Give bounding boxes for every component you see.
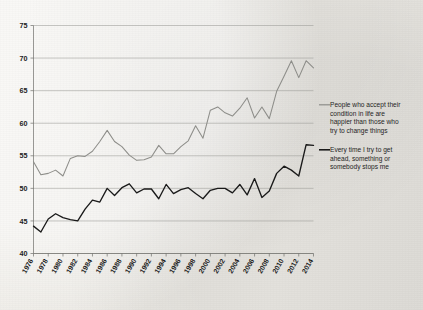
x-axis-tick-label: 1982 xyxy=(65,257,79,274)
legend-label-1: condition in life are xyxy=(330,110,385,117)
x-axis-tick-label: 2004 xyxy=(227,257,241,274)
x-axis-tick-label: 1998 xyxy=(183,257,197,274)
x-axis-tick-label: 2000 xyxy=(197,257,211,274)
line-chart: 4045505560657075 19761978198019821984198… xyxy=(0,0,423,310)
y-axis-tick-label: 55 xyxy=(20,151,28,160)
x-axis: 1976197819801982198419861988199019921994… xyxy=(21,254,315,275)
series-lines xyxy=(34,61,314,232)
legend-label-1: happier than those who xyxy=(330,118,399,126)
x-axis-tick-label: 1984 xyxy=(79,257,93,274)
x-axis-tick-label: 1986 xyxy=(94,257,108,274)
x-axis-tick-label: 1994 xyxy=(153,257,167,274)
legend-label-2: ahead, something or xyxy=(330,155,391,163)
y-axis: 4045505560657075 xyxy=(20,21,34,258)
x-axis-tick-label: 2006 xyxy=(242,257,256,274)
legend-label-2: somebody stops me xyxy=(330,163,389,171)
y-axis-tick-label: 60 xyxy=(20,119,28,128)
x-axis-tick-label: 2002 xyxy=(212,257,226,274)
x-axis-tick-label: 2014 xyxy=(301,257,315,274)
y-axis-tick-label: 45 xyxy=(20,217,28,226)
x-axis-tick-label: 1990 xyxy=(124,257,138,274)
chart-svg: 4045505560657075 19761978198019821984198… xyxy=(0,0,423,310)
y-axis-tick-label: 50 xyxy=(20,184,28,193)
x-axis-tick-label: 1992 xyxy=(138,257,152,274)
series-line-1 xyxy=(34,61,314,176)
y-axis-tick-label: 70 xyxy=(20,54,28,63)
x-axis-tick-label: 1988 xyxy=(109,257,123,274)
gridlines xyxy=(34,26,314,254)
x-axis-tick-label: 1996 xyxy=(168,257,182,274)
legend-label-1: People who accept their xyxy=(330,101,401,109)
x-axis-tick-label: 1978 xyxy=(35,257,49,274)
y-axis-tick-label: 65 xyxy=(20,86,28,95)
x-axis-tick-label: 2012 xyxy=(286,257,300,274)
x-axis-tick-label: 1980 xyxy=(50,257,64,274)
x-axis-tick-label: 1976 xyxy=(21,257,35,274)
chart-legend: People who accept theircondition in life… xyxy=(319,101,401,171)
x-axis-tick-label: 2008 xyxy=(256,257,270,274)
legend-label-2: Every time I try to get xyxy=(330,146,392,154)
legend-label-1: try to change things xyxy=(330,127,388,135)
y-axis-tick-label: 40 xyxy=(20,249,28,258)
x-axis-tick-label: 2010 xyxy=(271,257,285,274)
y-axis-tick-label: 75 xyxy=(20,21,28,30)
